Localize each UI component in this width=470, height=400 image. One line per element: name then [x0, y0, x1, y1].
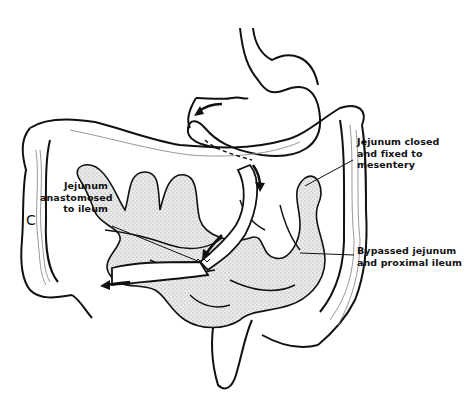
label-line: anastomosed [40, 192, 108, 204]
label-line: and fixed to [357, 148, 439, 160]
label-line: to ileum [40, 203, 108, 215]
anatomy-diagram: C Jejunum closed and fixed to mesentery … [0, 0, 470, 400]
label-line: Bypassed jejunum [357, 245, 462, 257]
label-jejunum-closed: Jejunum closed and fixed to mesentery [357, 136, 439, 171]
stomach [188, 28, 320, 156]
label-jejunum-anastomosed: Jejunum anastomosed to ileum [40, 180, 108, 215]
label-line: mesentery [357, 159, 439, 171]
label-line: and proximal ileum [357, 257, 462, 269]
label-line: Jejunum closed [357, 136, 439, 148]
panel-letter: C [26, 212, 36, 228]
label-bypassed: Bypassed jejunum and proximal ileum [357, 245, 462, 268]
dashed-path [205, 140, 252, 160]
label-line: Jejunum [40, 180, 108, 192]
